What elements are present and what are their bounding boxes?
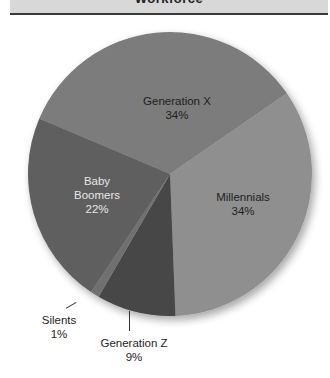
label-name: Generation X bbox=[143, 94, 211, 108]
label-name-line2: Boomers bbox=[74, 188, 120, 202]
label-value: 9% bbox=[100, 350, 167, 364]
label-value: 34% bbox=[216, 204, 270, 218]
label-name-line1: Baby bbox=[74, 174, 120, 188]
label-millennials: Millennials 34% bbox=[216, 190, 270, 218]
label-name: Silents bbox=[42, 313, 77, 327]
label-silents: Silents 1% bbox=[42, 313, 77, 341]
generation-z-leader-line bbox=[129, 311, 130, 331]
label-value: 22% bbox=[74, 202, 120, 216]
label-generation-z: Generation Z 9% bbox=[100, 336, 167, 364]
label-name: Millennials bbox=[216, 190, 270, 204]
label-baby-boomers: Baby Boomers 22% bbox=[74, 174, 120, 216]
label-generation-x: Generation X 34% bbox=[143, 94, 211, 122]
label-value: 1% bbox=[42, 327, 77, 341]
label-value: 34% bbox=[143, 108, 211, 122]
label-name: Generation Z bbox=[100, 336, 167, 350]
